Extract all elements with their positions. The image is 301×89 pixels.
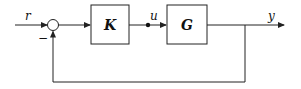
- controller-label: K: [103, 17, 117, 33]
- output-label: y: [267, 9, 275, 23]
- feedback-path: [53, 25, 245, 82]
- reference-label: r: [25, 9, 32, 23]
- summing-junction: [48, 20, 59, 31]
- control-label: u: [150, 9, 158, 23]
- diagram-svg: r − K u G y: [0, 0, 301, 89]
- control-node-dot: [146, 23, 150, 27]
- feedback-sign: −: [38, 31, 48, 45]
- plant-label: G: [181, 17, 193, 33]
- block-diagram: r − K u G y: [0, 0, 301, 89]
